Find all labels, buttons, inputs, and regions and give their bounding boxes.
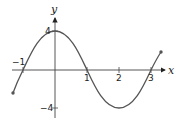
y-tick-label-neg4: −4: [40, 103, 54, 113]
cosine-graph: y x −1 1 2 3 4 −4: [0, 0, 182, 122]
x-tick-label-3: 3: [148, 73, 154, 83]
cosine-curve: [13, 31, 161, 108]
x-axis-label: x: [168, 64, 175, 77]
x-tick-label-neg1: −1: [12, 57, 25, 67]
y-axis-label: y: [50, 3, 58, 16]
x-tick-label-1: 1: [84, 73, 90, 83]
y-tick-label-4: 4: [45, 26, 51, 36]
chart-canvas: y x −1 1 2 3 4 −4: [0, 0, 182, 122]
x-tick-label-2: 2: [116, 73, 122, 83]
